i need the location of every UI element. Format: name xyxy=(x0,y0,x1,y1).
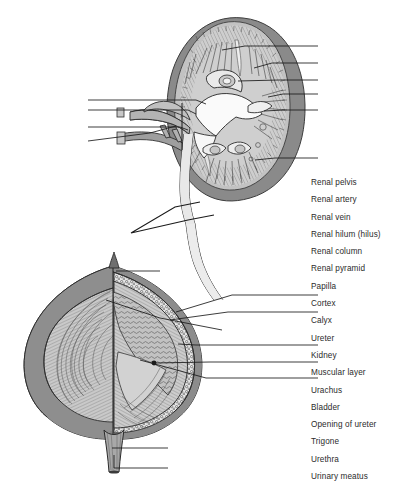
label-renal-column: Renal column xyxy=(311,243,401,260)
label-renal-vein: Renal vein xyxy=(311,209,401,226)
label-renal-hilum: Renal hilum (hilus) xyxy=(311,226,401,243)
urinary-meatus-opening xyxy=(109,470,119,473)
label-renal-pyramid: Renal pyramid xyxy=(311,260,401,277)
label-trigone: Trigone xyxy=(311,433,401,450)
label-cortex: Cortex xyxy=(311,295,401,312)
label-bladder: Bladder xyxy=(311,399,401,416)
label-urinary-meatus: Urinary meatus xyxy=(311,468,401,485)
label-ureter: Ureter xyxy=(311,330,401,347)
label-renal-pelvis: Renal pelvis xyxy=(311,174,401,191)
label-renal-artery: Renal artery xyxy=(311,191,401,208)
label-column: Renal pelvis Renal artery Renal vein Ren… xyxy=(311,174,401,485)
label-urachus: Urachus xyxy=(311,382,401,399)
label-muscular-layer: Muscular layer xyxy=(311,364,401,381)
label-urethra: Urethra xyxy=(311,451,401,468)
label-calyx: Calyx xyxy=(311,312,401,329)
label-kidney: Kidney xyxy=(311,347,401,364)
label-opening-of-ureter: Opening of ureter xyxy=(311,416,401,433)
label-papilla: Papilla xyxy=(311,278,401,295)
